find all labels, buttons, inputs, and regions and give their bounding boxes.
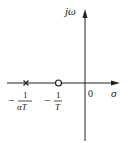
- real-axis-arrow-icon: [111, 81, 120, 86]
- imag-axis-label: jω: [63, 5, 76, 17]
- pole-label-sign: −: [8, 94, 14, 106]
- zero-label: − 1 T: [44, 90, 62, 112]
- pole-label-denominator: αT: [17, 102, 28, 112]
- imag-axis-arrow-icon: [83, 9, 88, 18]
- pole-label: − 1 αT: [8, 90, 32, 112]
- zero-marker-icon: [56, 80, 62, 86]
- s-plane-diagram: jω σ 0 − 1 αT − 1 T: [0, 0, 131, 143]
- zero-label-denominator: T: [55, 102, 61, 112]
- zero-label-sign: −: [44, 94, 50, 106]
- real-axis-label: σ: [111, 87, 117, 99]
- origin-label: 0: [88, 88, 93, 99]
- pole-label-numerator: 1: [23, 90, 28, 100]
- zero-label-numerator: 1: [56, 90, 61, 100]
